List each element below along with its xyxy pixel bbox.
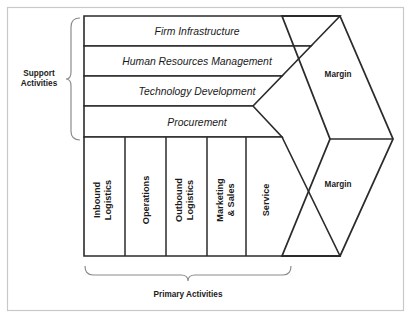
primary-col-label-0-line1: Inbound: [92, 182, 102, 218]
primary-col-1: Operations: [141, 176, 151, 225]
primary-col-label-0-line2: Logistics: [103, 180, 113, 220]
primary-col-label-3-line2: & Sales: [226, 183, 236, 216]
primary-col-label-2-line1: Outbound: [174, 178, 184, 222]
support-row-label-0: Firm Infrastructure: [155, 26, 240, 37]
primary-col-label-1-line1: Operations: [141, 176, 151, 225]
support-group-label-line1: Support: [23, 69, 55, 78]
support-row-label-2: Technology Development: [139, 86, 257, 97]
support-group-label-line2: Activities: [21, 79, 58, 88]
support-row-label-3: Procurement: [167, 117, 228, 128]
value-chain-diagram: Firm Infrastructure Human Resources Mana…: [0, 0, 412, 321]
primary-col-4: Service: [261, 184, 271, 217]
primary-col-3: Marketing & Sales: [215, 178, 236, 221]
margin-label-lower: Margin: [325, 180, 352, 189]
primary-group-label: Primary Activities: [154, 290, 223, 299]
support-row-label-1: Human Resources Management: [122, 56, 273, 67]
margin-label-upper: Margin: [325, 70, 352, 79]
primary-col-label-4-line1: Service: [261, 184, 271, 217]
primary-col-2: Outbound Logistics: [174, 178, 195, 222]
value-chain-svg: Firm Infrastructure Human Resources Mana…: [0, 0, 412, 321]
primary-col-label-3-line1: Marketing: [215, 178, 225, 221]
primary-col-label-2-line2: Logistics: [185, 180, 195, 220]
primary-col-0: Inbound Logistics: [92, 180, 113, 220]
